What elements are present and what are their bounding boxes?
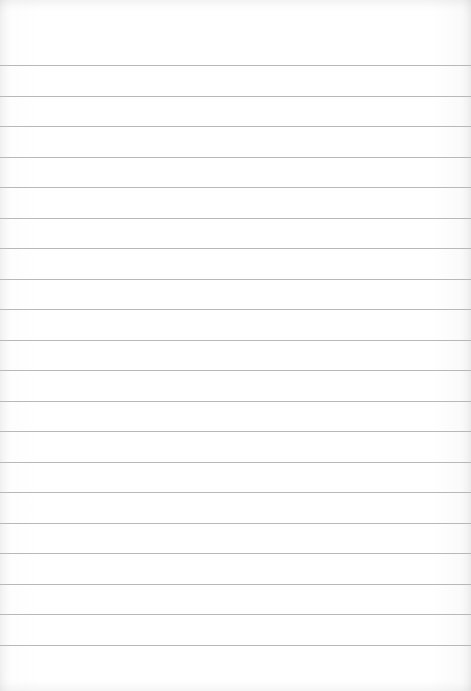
ruled-line	[0, 492, 471, 493]
ruled-paper	[0, 0, 471, 691]
ruled-line	[0, 340, 471, 341]
ruled-line	[0, 309, 471, 310]
ruled-line	[0, 248, 471, 249]
ruled-line	[0, 157, 471, 158]
ruled-line	[0, 462, 471, 463]
ruled-line	[0, 187, 471, 188]
ruled-line	[0, 126, 471, 127]
ruled-line	[0, 614, 471, 615]
ruled-line	[0, 96, 471, 97]
ruled-line	[0, 218, 471, 219]
ruled-line	[0, 370, 471, 371]
ruled-line	[0, 584, 471, 585]
ruled-line	[0, 431, 471, 432]
ruled-line	[0, 279, 471, 280]
ruled-line	[0, 523, 471, 524]
ruled-line	[0, 645, 471, 646]
ruled-line	[0, 553, 471, 554]
ruled-line	[0, 65, 471, 66]
ruled-line	[0, 401, 471, 402]
